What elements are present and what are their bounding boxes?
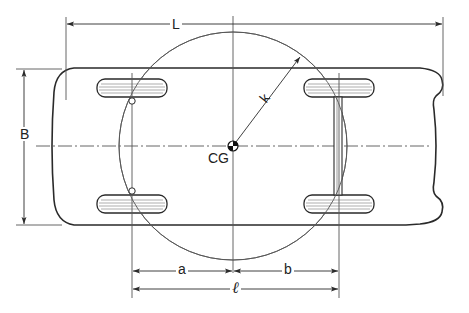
front-right-pivot xyxy=(129,188,135,194)
label-L: L xyxy=(170,17,182,31)
label-b: b xyxy=(282,262,294,276)
front-left-pivot xyxy=(129,98,135,104)
label-cg: CG xyxy=(206,151,231,165)
label-B: B xyxy=(18,127,31,141)
cg-symbol-icon xyxy=(228,141,238,151)
rear-axle xyxy=(334,97,342,195)
vehicle-diagram xyxy=(0,0,469,313)
label-wheelbase: ℓ xyxy=(230,281,241,295)
label-a: a xyxy=(176,262,188,276)
